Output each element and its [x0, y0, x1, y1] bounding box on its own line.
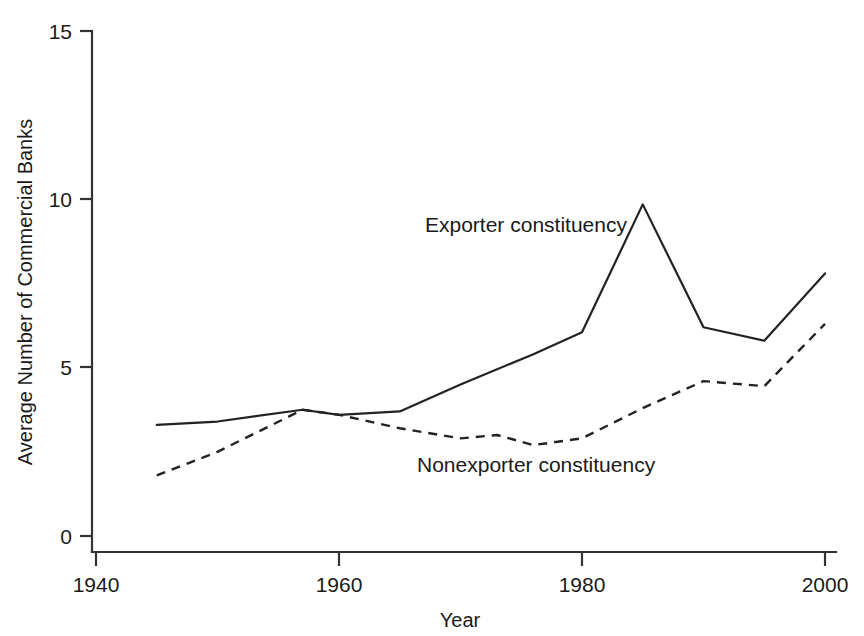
y-tick-label-15: 15 — [49, 20, 72, 43]
y-tick-label-0: 0 — [60, 525, 72, 548]
y-axis-title: Average Number of Commercial Banks — [14, 119, 36, 465]
x-axis-title: Year — [440, 609, 481, 631]
y-tick-label-5: 5 — [60, 356, 72, 379]
y-tick-label-10: 10 — [49, 188, 72, 211]
x-tick-label-1980: 1980 — [559, 573, 606, 596]
series-line-exporter — [157, 204, 825, 425]
x-tick-label-1940: 1940 — [73, 573, 120, 596]
x-tick-label-1960: 1960 — [316, 573, 363, 596]
line-chart: 15 10 5 0 1940 1960 1980 2000 Year Avera… — [0, 0, 864, 636]
series-label-exporter: Exporter constituency — [425, 213, 627, 236]
x-tick-label-2000: 2000 — [802, 573, 849, 596]
chart-figure: 15 10 5 0 1940 1960 1980 2000 Year Avera… — [0, 0, 864, 636]
series-label-nonexporter: Nonexporter constituency — [417, 453, 656, 476]
